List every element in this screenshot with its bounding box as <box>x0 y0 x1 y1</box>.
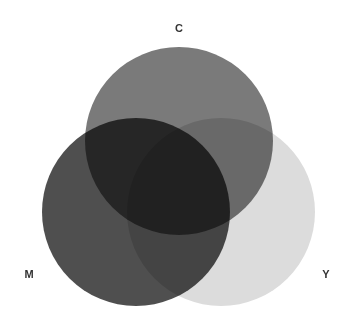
venn-diagram: C M Y <box>0 0 352 323</box>
venn-circles <box>42 47 315 306</box>
label-m: M <box>24 268 33 280</box>
label-c: C <box>175 22 183 34</box>
label-y: Y <box>322 268 330 280</box>
circle-y <box>127 118 315 306</box>
